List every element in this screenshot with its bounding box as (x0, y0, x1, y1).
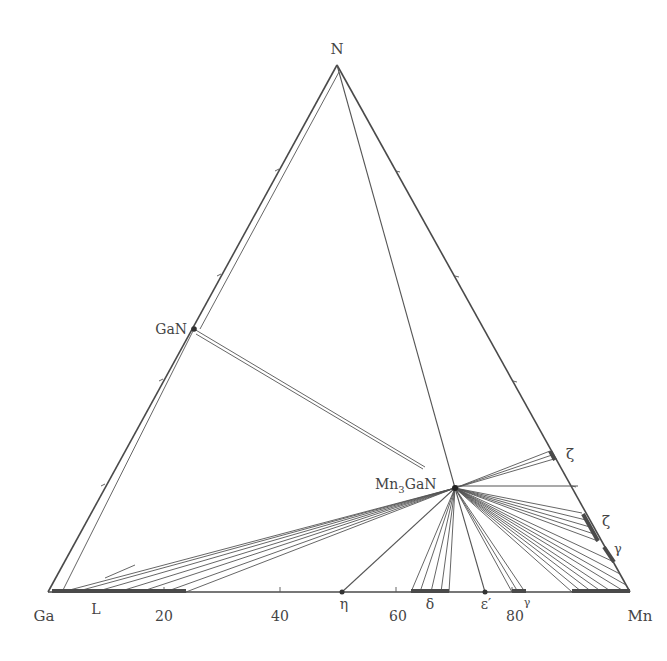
phase-label-eta: η (340, 596, 348, 612)
tick-label-60: 60 (389, 608, 407, 624)
gan-mn3gan-tieline (194, 329, 425, 469)
ternary-phase-diagram: N Ga Mn 20 40 60 80 GaN Mn3GaN L η δ ε′ … (0, 0, 667, 661)
gamma-bottom-tie-fan (455, 488, 526, 592)
compound-label-mn3gan: Mn3GaN (375, 476, 437, 495)
gan-n-edge-inner (200, 72, 339, 329)
liquid-leader-line (105, 565, 135, 578)
left-edge-ticks (101, 169, 279, 486)
epsilon-prime-point (483, 590, 488, 595)
phase-label-gamma-right: γ (614, 541, 622, 556)
vertex-label-mn: Mn (627, 607, 652, 625)
phase-label-epsilon-prime: ε′ (481, 596, 491, 612)
vertex-label-ga: Ga (34, 607, 55, 625)
phase-label-gamma-bottom: γ (524, 596, 531, 609)
phase-label-liquid: L (91, 601, 100, 617)
phase-label-zeta-lower: ζ (602, 512, 610, 530)
gan-point (191, 326, 197, 332)
phase-label-zeta-upper: ζ (566, 445, 574, 463)
mn3gan-point (452, 485, 458, 491)
phase-label-delta: δ (426, 596, 434, 612)
tick-label-40: 40 (271, 608, 289, 624)
tick-label-80: 80 (506, 608, 524, 624)
ga-gan-edge-inner (62, 329, 194, 592)
vertex-label-n: N (330, 40, 343, 58)
compound-label-gan: GaN (155, 321, 187, 337)
eta-point (340, 590, 345, 595)
liquid-tie-fan (52, 488, 455, 592)
delta-tie-fan (411, 488, 455, 592)
mn-corner-tie-fan (455, 488, 630, 592)
zeta-upper-tie-fan (455, 451, 555, 488)
tick-label-20: 20 (155, 608, 173, 624)
